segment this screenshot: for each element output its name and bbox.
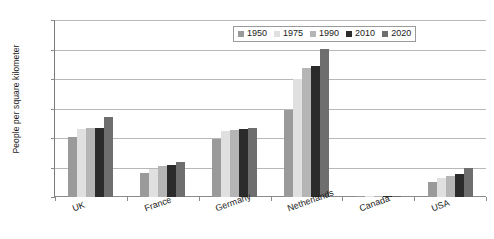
bar-germany-2010 [239,129,248,197]
bar-group-usa [414,20,486,197]
bar-germany-1990 [230,130,239,197]
bar-group-uk [55,20,127,197]
bar-uk-1990 [86,128,95,197]
bar-group-canada [342,20,414,197]
bar-germany-2020 [248,128,257,197]
legend-swatch-icon [346,31,352,37]
bar-group-germany [199,20,271,197]
legend-swatch-icon [310,31,316,37]
x-tick-label-uk: UK [71,200,86,214]
bar-germany-1950 [212,139,221,197]
bar-group-netherlands [271,20,343,197]
bar-netherlands-1950 [284,110,293,197]
bar-usa-1950 [428,182,437,197]
legend-label: 2010 [355,29,375,38]
bar-chart: People per square kilometer 010020030040… [0,0,494,239]
legend-item-1990[interactable]: 1990 [310,29,339,38]
bar-uk-1975 [77,129,86,197]
legend-item-2010[interactable]: 2010 [346,29,375,38]
x-tick-mark [414,197,415,201]
bar-france-1990 [158,166,167,197]
bar-usa-2020 [464,168,473,198]
legend-label: 1950 [247,29,267,38]
legend-item-1975[interactable]: 1975 [274,29,303,38]
bar-canada-1975 [365,196,374,197]
bar-group-france [127,20,199,197]
x-tick-mark [127,197,128,201]
bar-groups [55,20,486,197]
bar-netherlands-1975 [293,79,302,197]
bar-france-1950 [140,173,149,197]
bar-netherlands-2020 [320,49,329,197]
legend-item-2020[interactable]: 2020 [382,29,411,38]
bar-uk-2010 [95,128,104,197]
bar-france-1975 [149,169,158,197]
bar-usa-1990 [446,176,455,197]
legend-swatch-icon [382,31,388,37]
x-tick-label-france: France [143,194,173,213]
x-tick-mark [486,197,487,201]
bar-germany-1975 [221,131,230,197]
bar-usa-2010 [455,174,464,197]
legend-item-1950[interactable]: 1950 [238,29,267,38]
x-tick-mark [342,197,343,201]
legend-label: 2020 [391,29,411,38]
bar-canada-2020 [392,196,401,197]
legend-label: 1975 [283,29,303,38]
bar-netherlands-1990 [302,68,311,197]
bar-netherlands-2010 [311,66,320,197]
y-axis-title: People per square kilometer [11,14,21,184]
bar-canada-1950 [356,196,365,197]
plot-area [55,20,486,197]
x-tick-label-usa: USA [430,198,451,214]
legend-label: 1990 [319,29,339,38]
legend-swatch-icon [274,31,280,37]
x-tick-mark [199,197,200,201]
bar-france-2020 [176,162,185,197]
legend: 19501975199020102020 [233,26,416,42]
bar-france-2010 [167,165,176,197]
bar-usa-1975 [437,178,446,197]
x-tick-mark [271,197,272,201]
x-tick-mark [55,197,56,201]
bar-uk-1950 [68,137,77,197]
legend-swatch-icon [238,31,244,37]
bar-uk-2020 [104,117,113,197]
